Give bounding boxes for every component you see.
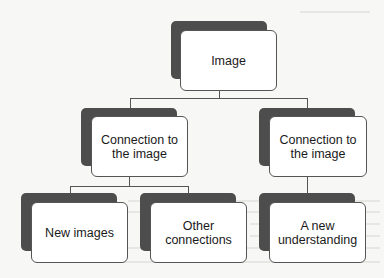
new-images-label: New images [45, 226, 114, 240]
connection-left-node: Connection to the image [91, 116, 188, 177]
other-connections-node: Other connections [150, 202, 247, 263]
other-connections-line1: Other [165, 219, 232, 233]
connection-left-line2: the image [101, 147, 178, 161]
connection-left-line1: Connection to [101, 133, 178, 147]
connection-right-node: Connection to the image [269, 116, 367, 177]
new-understanding-node: A new understanding [269, 202, 366, 263]
root-node-label: Image [211, 54, 246, 68]
new-understanding-line1: A new [278, 219, 357, 233]
other-connections-line2: connections [165, 233, 232, 247]
connection-right-line1: Connection to [279, 133, 356, 147]
connection-right-line2: the image [279, 147, 356, 161]
connector-left-mid-down [129, 176, 130, 186]
connector-root-horizontal [130, 98, 308, 99]
root-node: Image [180, 30, 277, 91]
new-images-node: New images [31, 202, 128, 263]
connector-root-down [219, 90, 220, 98]
connector-left-mid-horizontal [70, 186, 189, 187]
new-understanding-line2: understanding [278, 233, 357, 247]
